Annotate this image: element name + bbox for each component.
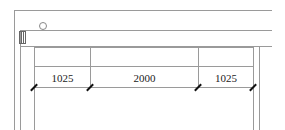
- wall-inner-left: [20, 30, 21, 130]
- wall-line-2: [20, 30, 272, 31]
- dimension-label: 1025: [199, 72, 253, 84]
- grid-top: [34, 47, 254, 48]
- dimension-line: [34, 87, 254, 88]
- outer-right-line: [259, 46, 260, 130]
- dimension-label: 1025: [35, 72, 90, 84]
- circle-marker-icon: [39, 22, 47, 30]
- outer-left-line: [14, 10, 15, 130]
- outer-top-line: [14, 10, 272, 11]
- dimension-label: 2000: [91, 72, 198, 84]
- column-section-icon: [19, 31, 26, 44]
- grid-mid: [34, 66, 254, 67]
